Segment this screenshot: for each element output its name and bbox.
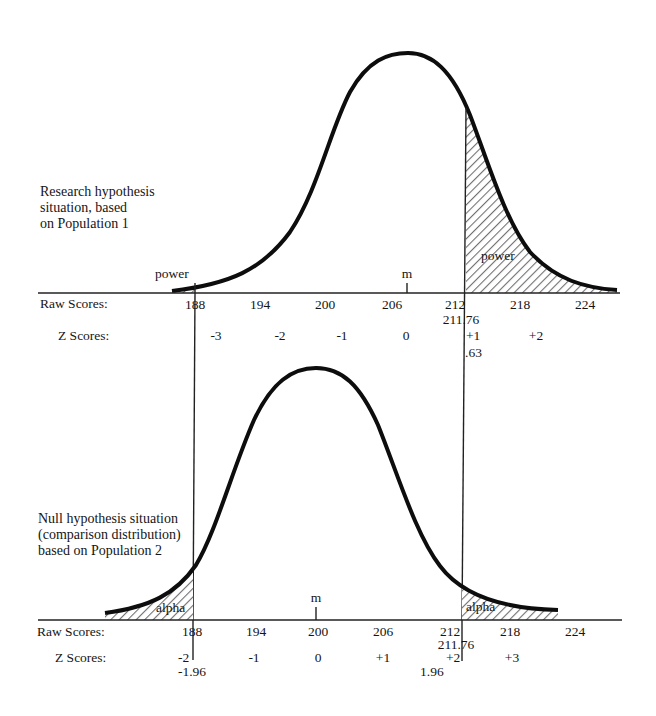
bottom-raw-tick: 188	[182, 624, 202, 640]
null-caption-line-2: (comparison distribution)	[38, 527, 181, 543]
top-raw-tick: 212	[445, 297, 465, 313]
bottom-z-tick: 0	[315, 650, 322, 666]
top-raw-tick: 194	[250, 297, 270, 313]
top-z-tick: -1	[336, 328, 347, 344]
top-raw-tick: 218	[510, 297, 530, 313]
bottom-raw-tick: 200	[308, 624, 328, 640]
top-raw-tick: 206	[382, 297, 402, 313]
research-caption-line-3: on Population 1	[40, 216, 155, 232]
research-distribution	[38, 53, 620, 293]
power-label-right: power	[481, 248, 515, 264]
top-z-tick: -3	[210, 328, 221, 344]
alpha-region-left	[105, 368, 558, 620]
research-caption-line-2: situation, based	[40, 200, 155, 216]
top-z-tick: -2	[274, 328, 285, 344]
bottom-raw-tick: 218	[500, 624, 520, 640]
cutoff-line-211-76	[462, 108, 466, 620]
top-z-tick: 0	[403, 328, 410, 344]
alpha-label-right: alpha	[466, 599, 495, 615]
research-caption: Research hypothesis situation, based on …	[40, 184, 155, 232]
null-caption-line-3: based on Population 2	[38, 543, 181, 559]
alpha-region-right	[105, 368, 558, 620]
null-caption-line-1: Null hypothesis situation	[38, 511, 181, 527]
top-cutoff-z-label: .63	[465, 345, 482, 361]
null-curve	[105, 368, 558, 613]
bottom-raw-tick: 224	[565, 624, 585, 640]
bottom-z-tick: +1	[376, 650, 390, 666]
diagram-canvas	[0, 0, 656, 716]
top-raw-tick: 188	[185, 297, 205, 313]
research-curve	[172, 53, 617, 291]
bottom-z-scores-label: Z Scores:	[55, 650, 106, 666]
research-caption-line-1: Research hypothesis	[40, 184, 155, 200]
top-raw-tick: 200	[315, 297, 335, 313]
top-mean-label: m	[402, 266, 413, 282]
bottom-z-tick: +2	[446, 650, 460, 666]
top-cutoff-raw-label: 211.76	[443, 312, 480, 328]
top-raw-tick: 224	[575, 297, 595, 313]
bottom-raw-tick: 194	[246, 624, 266, 640]
bottom-raw-scores-label: Raw Scores:	[37, 624, 105, 640]
power-region-right	[172, 53, 617, 293]
top-z-scores-label: Z Scores:	[58, 328, 109, 344]
top-z-tick: +1	[466, 328, 480, 344]
bottom-z-tick: -1	[248, 650, 259, 666]
power-label-left: power	[155, 266, 189, 282]
power-region-left	[172, 232, 290, 293]
top-z-tick: +2	[529, 328, 543, 344]
bottom-cutoff-z-left: -1.96	[178, 664, 206, 680]
bottom-raw-tick: 206	[373, 624, 393, 640]
bottom-cutoff-z-right: 1.96	[420, 664, 444, 680]
top-raw-scores-label: Raw Scores:	[40, 296, 108, 312]
null-caption: Null hypothesis situation (comparison di…	[38, 511, 181, 559]
bottom-z-tick: +3	[505, 650, 519, 666]
alpha-label-left: alpha	[156, 600, 185, 616]
bottom-mean-label: m	[311, 590, 322, 606]
